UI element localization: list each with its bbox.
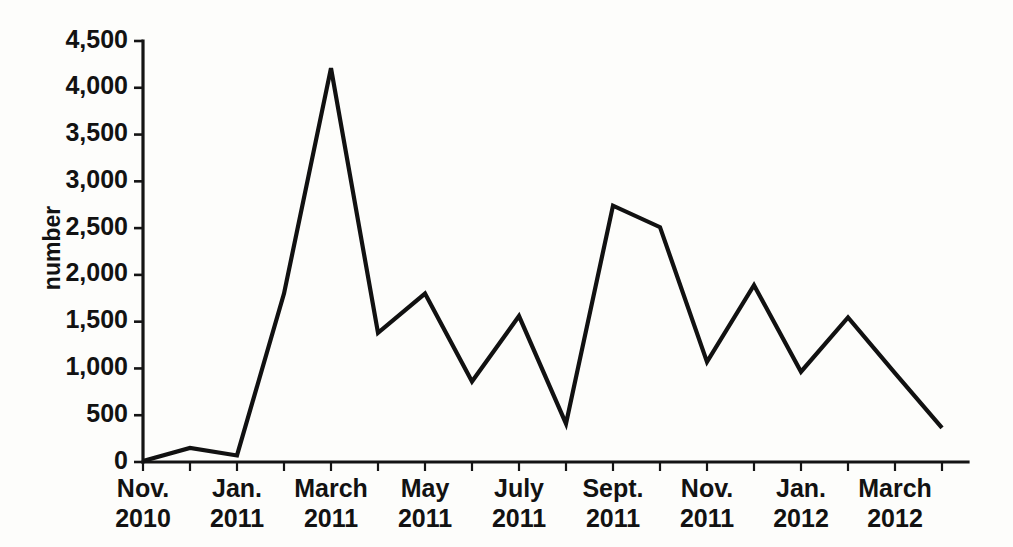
x-axis-tick-label-month: Jan. <box>212 474 262 502</box>
y-axis-tick-label: 3,000 <box>65 165 128 193</box>
x-axis-tick-label-month: July <box>494 474 544 502</box>
x-axis-tick-label-year: 2011 <box>210 504 264 532</box>
x-axis-tick-label-year: 2011 <box>304 504 358 532</box>
x-axis-tick-label-month: March <box>294 474 368 502</box>
x-axis-tick-label-year: 2010 <box>115 504 171 532</box>
x-axis-tick-label-year: 2011 <box>680 504 734 532</box>
data-series-line <box>143 68 942 461</box>
x-axis-tick-label-year: 2011 <box>586 504 640 532</box>
x-axis-tick-label-month: Sept. <box>582 474 643 502</box>
y-axis-tick-label: 4,000 <box>65 71 128 99</box>
y-axis-tick-label: 1,000 <box>65 352 128 380</box>
y-axis-tick-label: 500 <box>86 399 128 427</box>
y-axis-tick-label: 3,500 <box>65 118 128 146</box>
chart-canvas: 05001,0001,5002,0002,5003,0003,5004,0004… <box>0 0 1013 547</box>
y-axis-tick-label: 2,500 <box>65 212 128 240</box>
line-chart: 05001,0001,5002,0002,5003,0003,5004,0004… <box>0 0 1013 547</box>
x-axis-tick-label-month: Nov. <box>117 474 169 502</box>
y-axis-tick-label: 0 <box>114 446 128 474</box>
x-axis-tick-label-year: 2011 <box>492 504 546 532</box>
x-axis-tick-label-year: 2012 <box>773 504 829 532</box>
y-axis-tick-label: 1,500 <box>65 305 128 333</box>
y-axis-tick-label: 2,000 <box>65 258 128 286</box>
x-axis-tick-label-year: 2012 <box>867 504 923 532</box>
y-axis-title: number <box>39 206 65 290</box>
x-axis-tick-label-year: 2011 <box>398 504 452 532</box>
x-axis-tick-label-month: May <box>401 474 450 502</box>
x-axis-tick-label-month: Nov. <box>681 474 733 502</box>
y-axis-tick-labels: 05001,0001,5002,0002,5003,0003,5004,0004… <box>65 25 128 474</box>
x-axis-tick-label-month: March <box>858 474 932 502</box>
x-axis-tick-label-month: Jan. <box>776 474 826 502</box>
y-axis-tick-label: 4,500 <box>65 25 128 53</box>
x-axis-tick-labels: Nov.2010Jan.2011March2011May2011July2011… <box>115 474 932 532</box>
